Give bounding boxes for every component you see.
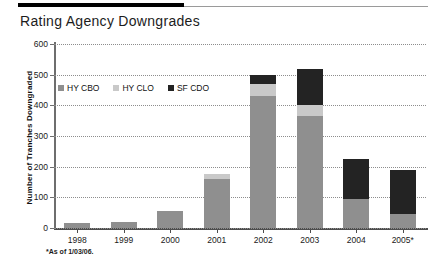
bar-segment[interactable]: [157, 211, 183, 228]
bar-group[interactable]: [111, 222, 137, 228]
y-axis-tick-label: 200: [8, 162, 48, 172]
legend-item-label: SF CDO: [177, 83, 209, 93]
chart-figure: Rating Agency Downgrades Number of Tranc…: [0, 0, 434, 264]
y-axis-tick-label: 100: [8, 192, 48, 202]
bar-segment[interactable]: [250, 84, 276, 96]
header-rule-thick: [18, 3, 184, 7]
page-title: Rating Agency Downgrades: [20, 13, 200, 29]
bar-segment[interactable]: [343, 199, 369, 228]
gridline: [54, 44, 426, 45]
bar-group[interactable]: [250, 75, 276, 228]
bar-segment[interactable]: [204, 179, 230, 228]
x-axis-tick-mark: [124, 229, 125, 233]
x-axis-tick-label: 2003: [287, 235, 333, 245]
x-axis-tick-label: 1998: [54, 235, 100, 245]
y-axis-tick-label: 0: [8, 223, 48, 233]
legend-item[interactable]: HY CLO: [113, 83, 154, 93]
y-axis-tick-label: 600: [8, 39, 48, 49]
x-axis-tick-mark: [403, 229, 404, 233]
x-axis-tick-label: 2002: [240, 235, 286, 245]
bar-segment[interactable]: [297, 116, 323, 228]
bar-segment[interactable]: [250, 96, 276, 228]
bar-segment[interactable]: [343, 159, 369, 199]
bar-segment[interactable]: [297, 105, 323, 116]
legend-item[interactable]: HY CBO: [58, 83, 99, 93]
x-axis-tick-mark: [170, 229, 171, 233]
bar-group[interactable]: [157, 211, 183, 228]
gridline: [54, 167, 426, 168]
bar-group[interactable]: [64, 223, 90, 228]
x-axis-tick-label: 2005*: [380, 235, 426, 245]
bar-segment[interactable]: [204, 174, 230, 179]
bar-segment[interactable]: [111, 222, 137, 228]
x-axis-tick-label: 2000: [147, 235, 193, 245]
x-axis-tick-mark: [217, 229, 218, 233]
bar-segment[interactable]: [64, 223, 90, 228]
bar-segment[interactable]: [250, 75, 276, 84]
x-axis-tick-label: 1999: [101, 235, 147, 245]
x-axis-tick-mark: [77, 229, 78, 233]
x-axis-tick-mark: [356, 229, 357, 233]
chart-legend: HY CBOHY CLOSF CDO: [58, 83, 209, 93]
legend-swatch-icon: [58, 85, 64, 91]
y-axis-tick-label: 500: [8, 70, 48, 80]
legend-swatch-icon: [113, 85, 119, 91]
legend-swatch-icon: [168, 85, 174, 91]
x-axis-tick-mark: [263, 229, 264, 233]
bar-segment[interactable]: [390, 214, 416, 228]
legend-item[interactable]: SF CDO: [168, 83, 209, 93]
x-axis-tick-label: 2001: [194, 235, 240, 245]
gridline: [54, 228, 426, 229]
legend-item-label: HY CLO: [122, 83, 154, 93]
x-axis-tick-label: 2004: [333, 235, 379, 245]
bar-group[interactable]: [390, 170, 416, 228]
plot-area: [54, 44, 426, 228]
y-axis-tick-label: 300: [8, 131, 48, 141]
bar-segment[interactable]: [390, 170, 416, 214]
bar-group[interactable]: [343, 159, 369, 228]
gridline: [54, 105, 426, 106]
x-axis-tick-mark: [310, 229, 311, 233]
gridline: [54, 75, 426, 76]
legend-item-label: HY CBO: [67, 83, 99, 93]
bar-group[interactable]: [204, 174, 230, 228]
gridline: [54, 197, 426, 198]
y-axis-tick-label: 400: [8, 100, 48, 110]
bar-group[interactable]: [297, 69, 323, 228]
gridline: [54, 136, 426, 137]
footnote: *As of 1/03/06.: [46, 248, 93, 255]
bar-segment[interactable]: [297, 69, 323, 106]
